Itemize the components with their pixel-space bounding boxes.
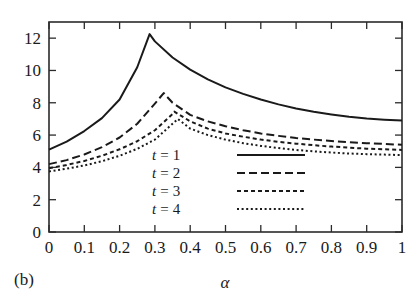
chart-background [0, 0, 420, 303]
x-tick-label: 0.4 [180, 238, 202, 257]
y-tick-label: 6 [33, 126, 42, 145]
y-tick-label: 2 [33, 191, 42, 210]
x-tick-label: 0.7 [285, 238, 307, 257]
x-tick-label: 0.2 [109, 238, 130, 257]
panel-label: (b) [14, 270, 34, 289]
y-tick-label: 12 [24, 29, 41, 48]
x-tick-label: 0.9 [356, 238, 377, 257]
figure-panel-b: 02468101200.10.20.30.40.50.60.70.80.91 t… [0, 0, 420, 303]
x-tick-label: 0.8 [321, 238, 342, 257]
y-tick-label: 0 [33, 223, 42, 242]
x-tick-label: 0.6 [250, 238, 271, 257]
x-tick-label: 0 [45, 238, 54, 257]
line-chart: 02468101200.10.20.30.40.50.60.70.80.91 t… [0, 0, 420, 303]
y-tick-label: 10 [24, 61, 41, 80]
y-tick-label: 8 [33, 94, 42, 113]
x-axis-title: α [221, 273, 231, 292]
x-tick-label: 0.5 [215, 238, 236, 257]
x-tick-label: 0.3 [144, 238, 165, 257]
x-tick-label: 0.1 [74, 238, 95, 257]
x-tick-label: 1 [398, 238, 407, 257]
y-tick-label: 4 [33, 158, 42, 177]
